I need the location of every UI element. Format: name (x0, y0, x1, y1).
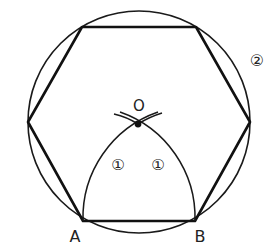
center-point-o (135, 121, 142, 128)
label-b: B (195, 227, 206, 246)
label-a: A (70, 227, 81, 246)
hexagon-construction-diagram: O A B ① ① ② (0, 0, 267, 248)
step-label-arc-left: ① (111, 156, 124, 174)
arc-cross-mark-left (114, 114, 138, 124)
label-o: O (133, 97, 145, 115)
step-label-circle: ② (250, 51, 264, 70)
step-label-arc-right: ① (151, 156, 164, 174)
